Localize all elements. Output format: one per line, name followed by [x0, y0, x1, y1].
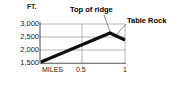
annotation-top-of-ridge: Top of ridge — [70, 5, 113, 14]
x-axis-label: MILES — [42, 66, 63, 74]
x-tick-label: 1 — [123, 66, 127, 74]
x-tick-label: 0.5 — [76, 66, 86, 74]
elevation-profile-chart: FT. 3,000 2,500 2,000 1,500 MILES 0.5 1 … — [0, 0, 182, 85]
annotation-table-rock: Table Rock — [127, 16, 166, 25]
annotation-leader-lines — [104, 15, 126, 35]
